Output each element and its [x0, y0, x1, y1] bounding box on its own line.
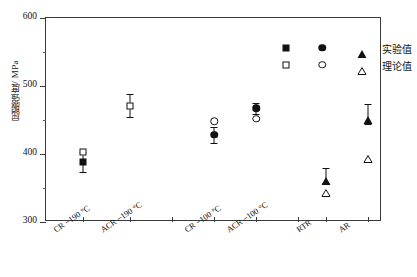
y-axis-tick-minor — [43, 52, 47, 53]
y-axis-title-text: 屈服强度/ MPa — [8, 60, 21, 121]
x-axis-tick — [83, 217, 84, 222]
x-axis-tick — [130, 217, 131, 222]
data-point-marker-circle-open — [210, 118, 218, 126]
x-axis-tick — [214, 217, 215, 222]
y-axis-tick-label: 600 — [0, 12, 37, 22]
y-axis-tick-label: 300 — [0, 216, 37, 226]
error-bar-cap — [211, 127, 218, 128]
y-axis-tick-label: 400 — [0, 148, 37, 158]
error-bar-cap — [364, 124, 371, 125]
error-bar-cap — [80, 172, 87, 173]
data-point-marker-triangle-filled — [321, 171, 330, 179]
data-point-marker-square-open — [127, 102, 134, 109]
data-point-marker-triangle-filled — [363, 110, 372, 118]
x-axis-category-label: AR — [337, 220, 352, 234]
data-point-marker-circle-filled — [252, 105, 260, 113]
legend-row: 理论值 — [274, 57, 417, 72]
legend-label: 理论值 — [382, 57, 412, 72]
chart-legend: 实验值理论值 — [274, 40, 417, 74]
x-axis-tick — [298, 217, 299, 222]
data-point-marker-triangle-open — [321, 183, 330, 191]
y-axis-tick-minor — [43, 120, 47, 121]
error-bar-cap — [322, 168, 329, 169]
x-axis-tick — [172, 217, 173, 222]
error-bar-cap — [364, 104, 371, 105]
error-bar-cap — [127, 94, 134, 95]
data-point-marker-triangle-open — [363, 149, 372, 157]
y-axis-tick-label: 500 — [0, 80, 37, 90]
legend-marker-circle-filled — [318, 44, 326, 52]
x-axis-tick — [368, 217, 369, 222]
legend-marker-square-open — [283, 61, 290, 68]
data-point-marker-circle-open — [252, 115, 260, 123]
error-bar-cap — [211, 143, 218, 144]
legend-marker-triangle-filled — [358, 44, 367, 52]
data-point-marker-circle-filled — [210, 131, 218, 139]
legend-marker-circle-open — [318, 61, 326, 69]
y-axis-tick-major — [40, 86, 46, 87]
y-axis-tick-minor — [43, 188, 47, 189]
data-point-marker-square-open — [80, 148, 87, 155]
y-axis-tick-major — [40, 18, 46, 19]
plot-area: 实验值理论值 — [45, 17, 381, 221]
x-axis-tick — [256, 217, 257, 222]
legend-label: 实验值 — [382, 40, 412, 55]
x-axis-tick — [326, 217, 327, 222]
legend-marker-triangle-open — [358, 61, 367, 69]
y-axis-tick-major — [40, 154, 46, 155]
y-axis-tick-major — [40, 222, 46, 223]
legend-row: 实验值 — [274, 40, 417, 55]
error-bar-cap — [127, 117, 134, 118]
data-point-marker-square-filled — [80, 159, 87, 166]
legend-marker-square-filled — [283, 44, 290, 51]
